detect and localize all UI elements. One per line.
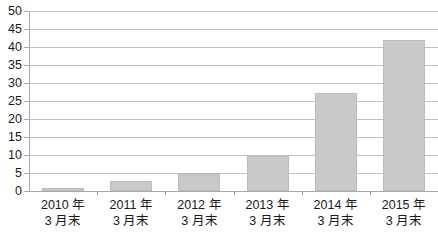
x-axis-category-label: 2013 年3 月末 xyxy=(234,197,302,229)
y-axis-tick xyxy=(24,137,29,138)
category-label-year: 2010 年 xyxy=(29,197,97,213)
y-axis-tick-label: 30 xyxy=(0,77,22,90)
category-label-month: 3 月末 xyxy=(29,213,97,229)
bar xyxy=(110,181,152,191)
category-axis-line xyxy=(29,191,438,192)
bar xyxy=(383,40,425,191)
bar-chart: 05101520253035404550 2010 年3 月末2011 年3 月… xyxy=(0,0,438,233)
category-label-month: 3 月末 xyxy=(97,213,165,229)
x-axis-category-label: 2012 年3 月末 xyxy=(165,197,233,229)
y-axis-tick-label: 35 xyxy=(0,59,22,72)
category-label-month: 3 月末 xyxy=(165,213,233,229)
y-axis-tick xyxy=(24,191,29,192)
y-axis-tick xyxy=(24,65,29,66)
x-axis-category-label: 2014 年3 月末 xyxy=(302,197,370,229)
y-axis-tick xyxy=(24,119,29,120)
category-label-year: 2014 年 xyxy=(302,197,370,213)
category-label-month: 3 月末 xyxy=(234,213,302,229)
y-axis-tick-label: 5 xyxy=(0,167,22,180)
y-axis-tick-label: 40 xyxy=(0,41,22,54)
y-axis-tick xyxy=(24,47,29,48)
y-axis-tick-label: 50 xyxy=(0,5,22,18)
x-axis-category-label: 2015 年3 月末 xyxy=(370,197,438,229)
category-label-month: 3 月末 xyxy=(370,213,438,229)
y-axis-tick-label: 25 xyxy=(0,95,22,108)
bar-slot xyxy=(29,11,97,191)
y-axis-tick-label: 10 xyxy=(0,149,22,162)
y-axis-tick xyxy=(24,155,29,156)
bar xyxy=(178,174,220,191)
x-axis-category-labels: 2010 年3 月末2011 年3 月末2012 年3 月末2013 年3 月末… xyxy=(29,191,438,233)
y-axis-tick-label: 45 xyxy=(0,23,22,36)
y-axis-tick xyxy=(24,29,29,30)
bar-slot xyxy=(97,11,165,191)
y-axis-tick xyxy=(24,173,29,174)
x-axis-category-label: 2010 年3 月末 xyxy=(29,197,97,229)
y-axis-tick xyxy=(24,101,29,102)
category-label-year: 2015 年 xyxy=(370,197,438,213)
y-axis-tick-label: 20 xyxy=(0,113,22,126)
category-label-year: 2011 年 xyxy=(97,197,165,213)
bar-slot xyxy=(165,11,233,191)
category-label-month: 3 月末 xyxy=(302,213,370,229)
y-axis-tick-label: 15 xyxy=(0,131,22,144)
bar-slot xyxy=(302,11,370,191)
bar xyxy=(247,156,289,191)
bar-slot xyxy=(370,11,438,191)
y-axis-tick xyxy=(24,11,29,12)
category-label-year: 2012 年 xyxy=(165,197,233,213)
y-axis-tick xyxy=(24,83,29,84)
bar-series xyxy=(29,11,438,191)
bar-slot xyxy=(234,11,302,191)
y-axis-labels: 05101520253035404550 xyxy=(0,11,22,191)
x-axis-category-label: 2011 年3 月末 xyxy=(97,197,165,229)
bar xyxy=(315,93,357,191)
y-axis-tick-label: 0 xyxy=(0,185,22,198)
category-label-year: 2013 年 xyxy=(234,197,302,213)
